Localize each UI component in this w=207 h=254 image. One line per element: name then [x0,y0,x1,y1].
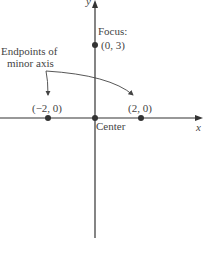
x-axis-label: x [195,121,201,133]
annotation-line1: Endpoints of [1,45,58,57]
annotation-line2: minor axis [7,57,54,69]
annotation-arrow-left [46,71,48,95]
left-endpoint-point [45,115,51,121]
center-label: Center [96,120,126,132]
focus-point [92,42,98,48]
right-endpoint-point [138,115,144,121]
right-endpoint-label: (2, 0) [128,102,152,115]
focus-label: Focus: [98,25,127,37]
left-endpoint-label: (−2, 0) [32,102,62,115]
y-axis-label: y [85,0,91,7]
ellipse-diagram: x y Focus: (0, 3) (−2, 0) Center (2, 0) … [0,0,207,254]
focus-coord-label: (0, 3) [101,39,125,52]
y-axis-arrow-icon [92,0,98,8]
annotation-arrow-right [46,71,133,95]
